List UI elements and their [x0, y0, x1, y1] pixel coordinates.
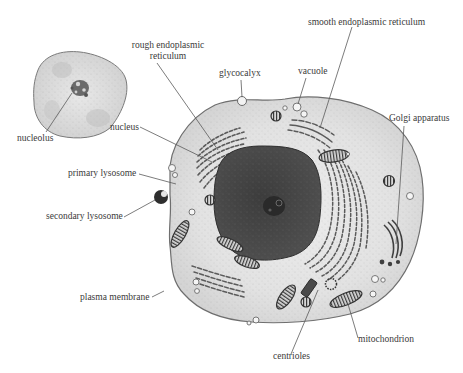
cell-illustration [0, 0, 463, 373]
glycocalyx-bump [238, 97, 247, 106]
label-secondary-lysosome: secondary lysosome [46, 211, 123, 222]
label-nucleus: nucleus [110, 122, 139, 133]
label-rough-er-line1: rough endoplasmic [120, 40, 216, 51]
label-glycocalyx: glycocalyx [219, 68, 261, 79]
secondary-lysosome [154, 190, 168, 204]
label-centrioles: centrioles [273, 351, 310, 362]
cell-diagram: rough endoplasmic reticulum glycocalyx v… [0, 0, 463, 373]
label-mitochondrion: mitochondrion [358, 334, 414, 345]
label-nucleolus: nucleolus [17, 133, 53, 144]
main-nucleolus [263, 196, 285, 216]
label-plasma-membrane: plasma membrane [80, 292, 149, 303]
label-primary-lysosome: primary lysosome [68, 168, 136, 179]
label-rough-er-line2: reticulum [120, 51, 216, 62]
label-golgi-apparatus: Golgi apparatus [389, 113, 449, 124]
label-rough-er: rough endoplasmic reticulum [120, 40, 216, 62]
label-vacuole: vacuole [298, 66, 328, 77]
main-cell [154, 97, 423, 326]
label-smooth-er: smooth endoplasmic reticulum [308, 17, 425, 28]
